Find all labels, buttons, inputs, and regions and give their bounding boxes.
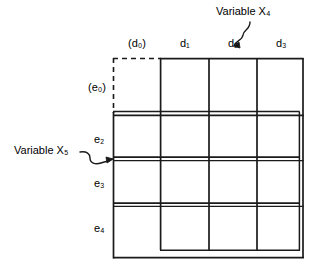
row-label-e0: (e₀) [88, 82, 106, 93]
grid-drawing [0, 0, 321, 271]
variable-x5-arrowhead [106, 157, 113, 163]
row-label-e0-text: (e₀) [88, 81, 106, 93]
row-label-e4: e₄ [94, 223, 105, 234]
annotation-variable-x4-text: Variable X₄ [216, 5, 270, 17]
row-label-e2-text: e₂ [94, 133, 104, 145]
column-label-d0-text: (d₀) [128, 37, 146, 49]
annotation-variable-x4: Variable X₄ [216, 6, 270, 17]
column-label-d0: (d₀) [128, 38, 146, 49]
column-label-d1-text: d₁ [180, 37, 190, 49]
column-label-d1: d₁ [180, 38, 190, 49]
figure-container: (d₀) d₁ d₂ d₃ (e₀) e₂ e₃ e₄ Variable X₄ … [0, 0, 321, 271]
column-label-d2-text: d₂ [228, 37, 238, 49]
column-label-d3: d₃ [276, 38, 287, 49]
column-label-d2: d₂ [228, 38, 238, 49]
row-label-e2: e₂ [94, 134, 104, 145]
annotation-variable-x5-text: Variable X₅ [14, 144, 68, 156]
row-label-e4-text: e₄ [94, 222, 105, 234]
row-label-e3: e₃ [94, 178, 105, 189]
annotation-variable-x5: Variable X₅ [14, 145, 68, 156]
row-label-e3-text: e₃ [94, 177, 105, 189]
column-label-d3-text: d₃ [276, 37, 287, 49]
